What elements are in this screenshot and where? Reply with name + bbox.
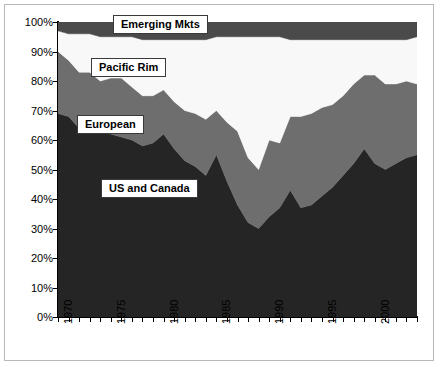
x-tick-mark bbox=[396, 318, 397, 322]
x-tick-mark bbox=[111, 318, 112, 322]
x-tick-mark bbox=[322, 318, 323, 322]
x-tick-label: 1980 bbox=[169, 300, 180, 324]
x-tick-mark bbox=[58, 318, 59, 322]
x-tick-mark bbox=[90, 318, 91, 322]
x-tick-label: 1985 bbox=[221, 300, 232, 324]
y-tick-label: 30% bbox=[7, 224, 53, 234]
y-tick-label: 100% bbox=[7, 17, 53, 27]
chart-frame: 100%90%80%70%60%50%40%30%20%10%0% 197019… bbox=[4, 4, 434, 361]
x-tick-mark bbox=[238, 318, 239, 322]
x-tick-mark bbox=[195, 318, 196, 322]
x-tick-mark bbox=[164, 318, 165, 322]
x-tick-label: 1970 bbox=[63, 300, 74, 324]
x-tick-mark bbox=[269, 318, 270, 322]
x-tick-label: 1990 bbox=[274, 300, 285, 324]
y-tick-label: 90% bbox=[7, 47, 53, 57]
y-tick-label: 70% bbox=[7, 106, 53, 116]
series-label-us-and-canada: US and Canada bbox=[101, 179, 198, 198]
x-tick-mark bbox=[311, 318, 312, 322]
x-tick-mark bbox=[142, 318, 143, 322]
x-tick-mark bbox=[417, 318, 418, 322]
x-tick-mark bbox=[354, 318, 355, 322]
x-tick-mark bbox=[79, 318, 80, 322]
x-tick-mark bbox=[248, 318, 249, 322]
x-tick-mark bbox=[216, 318, 217, 322]
x-tick-mark bbox=[364, 318, 365, 322]
y-tick-label: 20% bbox=[7, 253, 53, 263]
y-tick-label: 40% bbox=[7, 194, 53, 204]
series-label-emerging-mkts: Emerging Mkts bbox=[113, 15, 208, 34]
x-tick-mark bbox=[406, 318, 407, 322]
y-tick-label: 50% bbox=[7, 165, 53, 175]
series-label-european: European bbox=[77, 115, 144, 134]
x-tick-label: 1995 bbox=[327, 300, 338, 324]
x-axis-tick-labels: 1970197519801985199019952000 bbox=[5, 318, 435, 362]
x-tick-mark bbox=[185, 318, 186, 322]
x-tick-mark bbox=[132, 318, 133, 322]
x-tick-mark bbox=[100, 318, 101, 322]
y-tick-label: 10% bbox=[7, 283, 53, 293]
x-tick-label: 2000 bbox=[380, 300, 391, 324]
x-tick-mark bbox=[259, 318, 260, 322]
x-tick-mark bbox=[375, 318, 376, 322]
x-tick-mark bbox=[290, 318, 291, 322]
x-tick-mark bbox=[301, 318, 302, 322]
y-axis-tick-labels: 100%90%80%70%60%50%40%30%20%10%0% bbox=[5, 5, 53, 335]
series-label-pacific-rim: Pacific Rim bbox=[91, 58, 166, 77]
y-tick-label: 80% bbox=[7, 76, 53, 86]
x-tick-mark bbox=[343, 318, 344, 322]
x-tick-mark bbox=[206, 318, 207, 322]
x-tick-label: 1975 bbox=[116, 300, 127, 324]
y-tick-label: 60% bbox=[7, 135, 53, 145]
x-tick-mark bbox=[153, 318, 154, 322]
